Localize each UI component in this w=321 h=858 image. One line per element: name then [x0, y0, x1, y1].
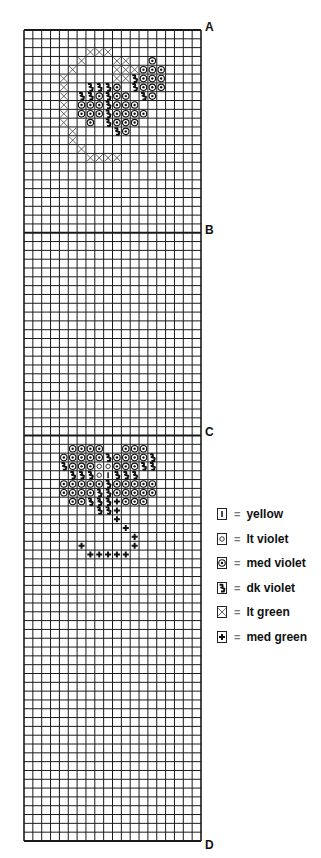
legend-swatch: [217, 606, 227, 618]
med-violet-symbol-icon: [78, 111, 84, 117]
med-violet-symbol-icon: [123, 463, 129, 469]
legend-equals: =: [234, 582, 240, 594]
chart-grid: [23, 29, 203, 843]
med-green-symbol-icon: [114, 551, 120, 557]
med-violet-symbol-icon: [78, 463, 84, 469]
lt-green-symbol-icon: [131, 66, 138, 73]
dk-violet-symbol-icon: [123, 472, 128, 479]
med-violet-symbol-icon: [78, 454, 84, 460]
grid-lines: [24, 30, 201, 841]
med-violet-symbol-icon: [158, 84, 164, 90]
legend-swatch: [217, 557, 227, 569]
lt-green-symbol-icon: [122, 57, 129, 64]
section-marker-d: D: [205, 838, 214, 852]
dk-violet-symbol-icon: [106, 111, 111, 118]
med-green-symbol-icon: [219, 634, 225, 640]
section-marker-c: C: [205, 425, 214, 439]
med-green-symbol-icon: [114, 516, 120, 522]
dk-violet-symbol-icon: [141, 93, 146, 100]
med-violet-symbol-icon: [140, 490, 146, 496]
legend-item-med-green: =med green: [217, 625, 307, 650]
med-violet-symbol-icon: [96, 102, 102, 108]
med-violet-symbol-icon: [96, 445, 102, 451]
med-violet-symbol-icon: [87, 111, 93, 117]
lt-green-symbol-icon: [60, 75, 67, 82]
med-violet-symbol-icon: [140, 111, 146, 117]
dk-violet-symbol-icon: [106, 490, 111, 497]
dk-violet-symbol-icon: [97, 490, 102, 497]
med-violet-symbol-icon: [114, 111, 120, 117]
med-violet-symbol-icon: [114, 454, 120, 460]
legend-item-lt-green: =lt green: [217, 600, 307, 625]
dk-violet-symbol-icon: [70, 472, 75, 479]
lt-green-symbol-icon: [218, 609, 225, 616]
med-violet-symbol-icon: [131, 445, 137, 451]
lt-green-symbol-icon: [113, 57, 120, 64]
lt-violet-symbol-icon: [220, 537, 225, 542]
dk-violet-symbol-icon: [106, 498, 111, 505]
legend-label: med green: [246, 630, 307, 644]
med-violet-symbol-icon: [149, 58, 155, 64]
med-violet-symbol-icon: [87, 490, 93, 496]
med-violet-symbol-icon: [131, 454, 137, 460]
dk-violet-symbol-icon: [106, 119, 111, 126]
med-violet-symbol-icon: [123, 481, 129, 487]
dk-violet-symbol-icon: [79, 472, 84, 479]
med-violet-symbol-icon: [78, 102, 84, 108]
med-violet-symbol-icon: [140, 75, 146, 81]
med-violet-symbol-icon: [78, 481, 84, 487]
med-violet-symbol-icon: [87, 445, 93, 451]
med-green-symbol-icon: [132, 543, 138, 549]
med-violet-symbol-icon: [78, 445, 84, 451]
lt-violet-symbol-icon: [97, 464, 101, 468]
dk-violet-symbol-icon: [132, 84, 137, 91]
legend-label: yellow: [246, 507, 283, 521]
med-violet-symbol-icon: [61, 490, 67, 496]
med-green-symbol-icon: [114, 507, 120, 513]
dk-violet-symbol-icon: [88, 93, 93, 100]
med-violet-symbol-icon: [96, 481, 102, 487]
lt-violet-symbol-icon: [106, 464, 110, 468]
med-violet-symbol-icon: [131, 119, 137, 125]
legend-equals: =: [234, 508, 240, 520]
lt-green-symbol-icon: [122, 66, 129, 73]
med-violet-symbol-icon: [123, 119, 129, 125]
med-violet-symbol-icon: [158, 66, 164, 72]
med-violet-symbol-icon: [114, 102, 120, 108]
med-violet-symbol-icon: [149, 490, 155, 496]
med-violet-symbol-icon: [131, 463, 137, 469]
med-violet-symbol-icon: [123, 445, 129, 451]
lt-green-symbol-icon: [69, 137, 76, 144]
dk-violet-symbol-icon: [106, 93, 111, 100]
med-violet-symbol-icon: [69, 463, 75, 469]
med-violet-symbol-icon: [123, 111, 129, 117]
lt-green-symbol-icon: [69, 66, 76, 73]
legend-swatch: [217, 582, 227, 594]
dk-violet-symbol-icon: [88, 498, 93, 505]
med-violet-symbol-icon: [87, 463, 93, 469]
med-green-symbol-icon: [114, 499, 120, 505]
med-violet-symbol-icon: [96, 111, 102, 117]
dk-violet-symbol-icon: [97, 507, 102, 514]
lt-green-symbol-icon: [113, 154, 120, 161]
lt-green-symbol-icon: [60, 84, 67, 91]
med-violet-symbol-icon: [87, 454, 93, 460]
med-violet-symbol-icon: [140, 454, 146, 460]
dk-violet-symbol-icon: [141, 463, 146, 470]
dk-violet-symbol-icon: [61, 463, 66, 470]
lt-green-symbol-icon: [78, 57, 85, 64]
med-violet-symbol-icon: [69, 445, 75, 451]
lt-violet-symbol-icon: [97, 473, 101, 477]
med-violet-symbol-icon: [140, 66, 146, 72]
med-violet-symbol-icon: [149, 75, 155, 81]
med-violet-symbol-icon: [140, 445, 146, 451]
med-violet-symbol-icon: [140, 84, 146, 90]
legend-swatch: [217, 508, 227, 520]
dk-violet-symbol-icon: [97, 84, 102, 91]
section-marker-a: A: [205, 20, 214, 34]
med-violet-symbol-icon: [123, 93, 129, 99]
legend: =yellow=lt violet=med violet=dk violet=l…: [217, 502, 307, 649]
lt-green-symbol-icon: [122, 75, 129, 82]
dk-violet-symbol-icon: [79, 93, 84, 100]
med-violet-symbol-icon: [114, 490, 120, 496]
